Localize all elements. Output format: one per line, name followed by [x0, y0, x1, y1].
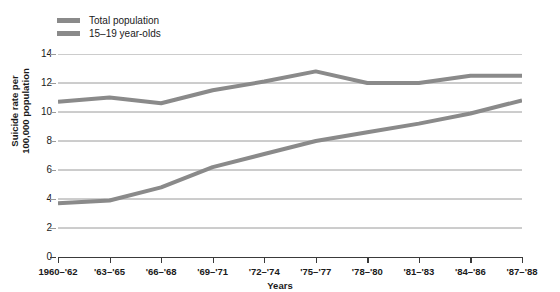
- x-tick: [316, 257, 317, 263]
- x-tick-label: '81–'83: [403, 266, 434, 277]
- legend-label-total-population: Total population: [89, 15, 159, 27]
- x-tick: [161, 257, 162, 263]
- y-tick-dash: [50, 83, 56, 84]
- legend-label-teens: 15–19 year-olds: [89, 28, 161, 40]
- y-tick-dash: [50, 199, 56, 200]
- x-tick-label: '66–'68: [146, 266, 177, 277]
- x-tick-label: '78–'80: [352, 266, 383, 277]
- x-tick-label: '72–'74: [249, 266, 280, 277]
- x-tick: [110, 257, 111, 263]
- x-tick: [58, 257, 59, 263]
- x-tick: [213, 257, 214, 263]
- legend-item-total-population: Total population: [57, 14, 161, 27]
- y-tick-label: 14: [32, 49, 52, 59]
- x-tick: [419, 257, 420, 263]
- y-tick-label: 6: [32, 165, 52, 175]
- y-tick-label: 2: [32, 223, 52, 233]
- x-tick-label: '63–'65: [94, 266, 125, 277]
- y-tick-dash: [50, 54, 56, 55]
- chart-legend: Total population 15–19 year-olds: [57, 14, 161, 40]
- y-axis-ticks: 14121086420: [26, 54, 52, 257]
- x-tick-label: 1960–'62: [38, 266, 77, 277]
- x-tick: [264, 257, 265, 263]
- x-tick-label: '87–'88: [507, 266, 538, 277]
- y-tick-label: 4: [32, 194, 52, 204]
- legend-swatch-total-population: [57, 18, 80, 23]
- y-tick-dash: [50, 257, 56, 258]
- legend-swatch-teens: [57, 31, 80, 36]
- y-tick-label: 8: [32, 136, 52, 146]
- series-line-teens: [58, 100, 522, 203]
- y-tick-dash: [50, 112, 56, 113]
- plot-area: [58, 54, 522, 257]
- x-tick-label: '75–'77: [300, 266, 331, 277]
- y-tick-label: 0: [32, 252, 52, 262]
- series-line-total-population: [58, 71, 522, 103]
- x-axis-line: [58, 257, 522, 258]
- x-tick: [522, 257, 523, 263]
- x-axis-title: Years: [0, 280, 560, 291]
- y-tick-dash: [50, 228, 56, 229]
- y-tick-label: 10: [32, 107, 52, 117]
- y-tick-dash: [50, 141, 56, 142]
- y-tick-label: 12: [32, 78, 52, 88]
- x-tick-label: '84–'86: [455, 266, 486, 277]
- y-axis-title-line1: Suicide rate per: [9, 51, 20, 171]
- y-tick-dash: [50, 170, 56, 171]
- x-tick-label: '69–'71: [197, 266, 228, 277]
- x-tick: [470, 257, 471, 263]
- plot-svg: [58, 54, 522, 257]
- legend-item-teens: 15–19 year-olds: [57, 27, 161, 40]
- x-tick: [367, 257, 368, 263]
- suicide-rate-line-chart: Total population 15–19 year-olds Suicide…: [0, 0, 560, 292]
